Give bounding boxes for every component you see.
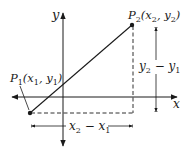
p1-comma: , y	[39, 71, 53, 85]
p2-label: P2(x2, y2)	[127, 8, 180, 24]
y-axis-label: y	[51, 7, 60, 22]
point-p1	[28, 111, 32, 115]
p1-close: )	[57, 71, 63, 85]
p1-leader-line	[20, 86, 29, 110]
point-p2	[130, 23, 134, 27]
p2-close: )	[175, 8, 181, 22]
segment-p1-p2	[30, 25, 132, 113]
distance-diagram: y x P2(x2, y2) P1(x1, y1) y2 − y1 x2 − x…	[0, 0, 190, 161]
p1-letter: P	[9, 71, 18, 85]
horizontal-dimension-label: x2 − x1	[69, 119, 110, 135]
p2-letter: P	[127, 8, 136, 22]
p2-open: (x	[141, 8, 152, 22]
p1-open: (x	[23, 71, 34, 85]
vertical-dimension-label: y2 − y1	[138, 59, 180, 75]
p2-comma: , y	[157, 8, 171, 22]
x-axis-label: x	[173, 97, 180, 111]
p1-label: P1(x1, y1)	[9, 71, 62, 87]
